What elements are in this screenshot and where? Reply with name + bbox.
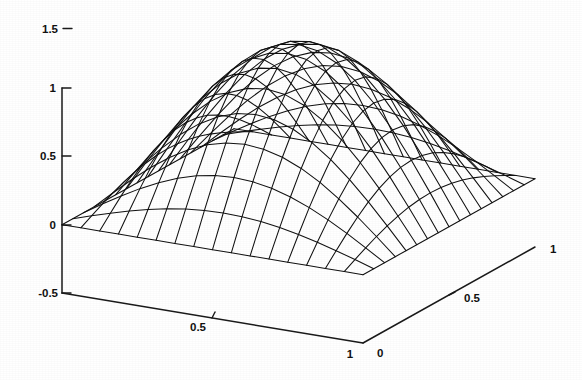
z-axis: 1 0.5 0 -0.5 [38,82,71,299]
ztick-label-1: 1 [50,82,57,94]
surface-mesh [62,41,535,274]
xtick-label-0.5: 0.5 [190,321,207,333]
ztick-label-0.5: 0.5 [40,150,57,162]
mesh-gridline [84,176,385,263]
xtick-label-1: 1 [347,348,354,360]
ytick-mark-0.5 [449,292,455,295]
surface-plot-3d: 1.5 1 0.5 0 -0.5 0.5 [0,0,582,380]
mesh-gridline [94,143,395,257]
ytick-label-0.5: 0.5 [464,292,481,304]
ztick-1p5-group: 1.5 [42,23,72,35]
ztick-label-0: 0 [50,219,56,231]
mesh-gridline [363,179,535,275]
ytick-label-1: 1 [550,243,557,255]
ytick-label-0: 0 [377,347,383,359]
axis-floor: 0.5 1 0 0.5 1 [62,243,557,360]
mesh-gridline [344,176,516,272]
xtick-mark-0.5 [212,312,215,318]
ztick-label-1.5: 1.5 [42,23,59,35]
ztick-label--0.5: -0.5 [38,287,58,299]
figure-canvas: 1.5 1 0.5 0 -0.5 0.5 [0,0,582,380]
mesh-gridline [116,88,417,244]
mesh-gridline [156,58,328,240]
